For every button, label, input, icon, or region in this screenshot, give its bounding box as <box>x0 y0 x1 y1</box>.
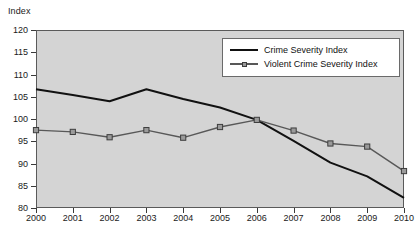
chart-legend: Crime Severity Index Violent Crime Sever… <box>222 38 400 77</box>
x-axis-tick-label: 2001 <box>53 213 93 223</box>
x-axis-tick-mark <box>367 208 368 213</box>
x-axis-tick-mark <box>257 208 258 213</box>
x-axis-tick-label: 2008 <box>310 213 350 223</box>
y-axis-tick-label: 110 <box>2 70 28 80</box>
legend-label: Crime Severity Index <box>264 44 348 56</box>
data-point-marker <box>217 124 222 129</box>
data-point-marker <box>328 141 333 146</box>
x-axis-tick-label: 2010 <box>384 213 417 223</box>
x-axis-tick-label: 2005 <box>200 213 240 223</box>
x-axis-tick-mark <box>146 208 147 213</box>
y-axis-tick-label: 90 <box>2 159 28 169</box>
x-axis-tick-label: 2000 <box>16 213 56 223</box>
x-axis-tick-mark <box>220 208 221 213</box>
y-axis-tick-label: 85 <box>2 181 28 191</box>
data-point-marker <box>70 129 75 134</box>
legend-item-violent-crime-severity-index: Violent Crime Severity Index <box>229 57 393 71</box>
y-axis-tick-label: 120 <box>2 25 28 35</box>
x-axis-tick-label: 2009 <box>347 213 387 223</box>
y-axis-tick-label: 100 <box>2 114 28 124</box>
x-axis-tick-mark <box>183 208 184 213</box>
data-point-marker <box>144 128 149 133</box>
x-axis-tick-label: 2002 <box>90 213 130 223</box>
data-point-marker <box>33 128 38 133</box>
legend-line-marker-swatch-icon <box>229 58 259 70</box>
x-axis-tick-mark <box>330 208 331 213</box>
x-axis-tick-label: 2003 <box>126 213 166 223</box>
y-axis-tick-label: 115 <box>2 47 28 57</box>
x-axis-tick-label: 2007 <box>274 213 314 223</box>
data-point-marker <box>401 168 406 173</box>
x-axis-tick-mark <box>294 208 295 213</box>
y-axis-tick-label: 80 <box>2 203 28 213</box>
data-point-marker <box>365 144 370 149</box>
data-point-marker <box>107 135 112 140</box>
data-point-marker <box>181 135 186 140</box>
x-axis-tick-mark <box>73 208 74 213</box>
legend-label: Violent Crime Severity Index <box>264 58 377 70</box>
y-axis-tick-label: 95 <box>2 136 28 146</box>
x-axis-tick-mark <box>404 208 405 213</box>
y-axis-tick-label: 105 <box>2 92 28 102</box>
data-point-marker <box>254 117 259 122</box>
legend-line-swatch-icon <box>229 44 259 56</box>
x-axis-tick-mark <box>36 208 37 213</box>
series-line <box>36 89 404 198</box>
legend-item-crime-severity-index: Crime Severity Index <box>229 43 393 57</box>
data-point-marker <box>291 128 296 133</box>
x-axis-tick-mark <box>110 208 111 213</box>
line-chart: Index 12011511010510095908580 2000200120… <box>0 0 417 236</box>
x-axis-tick-label: 2006 <box>237 213 277 223</box>
x-axis-tick-label: 2004 <box>163 213 203 223</box>
y-axis-title: Index <box>8 6 31 16</box>
